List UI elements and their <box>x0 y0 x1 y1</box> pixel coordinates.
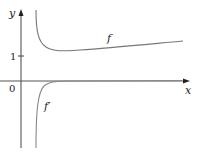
curve-f-prime-label: f′ <box>43 100 51 113</box>
curve-f-prime <box>36 81 182 149</box>
y-axis-arrow-icon <box>19 9 24 16</box>
origin-label: 0 <box>9 83 15 94</box>
y-tick-label-1: 1 <box>10 51 16 62</box>
x-axis-arrow-icon <box>183 79 190 84</box>
curve-f-label: f <box>106 32 113 45</box>
y-axis-label: y <box>8 7 16 20</box>
x-axis-label: x <box>185 84 192 97</box>
graph: y x 0 1 f f′ <box>0 0 201 165</box>
